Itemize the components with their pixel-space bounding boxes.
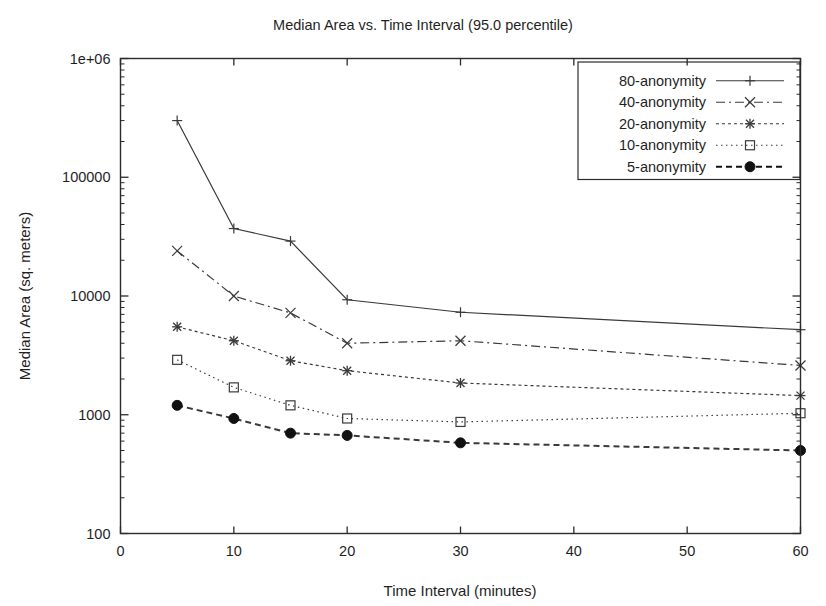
x-tick-label: 30 (452, 543, 468, 559)
x-tick-label: 20 (339, 543, 355, 559)
x-tick-label: 10 (226, 543, 242, 559)
median-area-line-chart: Median Area vs. Time Interval (95.0 perc… (0, 0, 826, 606)
y-axis-label: Median Area (sq. meters) (16, 212, 33, 380)
legend-label-80-anonymity: 80-anonymity (619, 73, 707, 89)
legend-label-20-anonymity: 20-anonymity (619, 116, 707, 132)
y-tick-label: 100000 (62, 169, 110, 185)
legend-marker-filled-circle-icon (745, 162, 755, 172)
x-tick-label: 40 (566, 543, 582, 559)
y-tick-label: 1000 (78, 407, 110, 423)
chart-container: Median Area vs. Time Interval (95.0 perc… (0, 0, 826, 606)
x-axis-label: Time Interval (minutes) (384, 582, 537, 599)
y-tick-label: 1e+06 (70, 51, 111, 67)
legend-marker-star-icon (745, 119, 755, 129)
legend-label-40-anonymity: 40-anonymity (619, 94, 707, 110)
chart-title: Median Area vs. Time Interval (95.0 perc… (273, 17, 573, 33)
chart-background (0, 0, 826, 606)
y-tick-label: 100 (86, 526, 110, 542)
x-tick-label: 0 (116, 543, 124, 559)
x-tick-label: 60 (792, 543, 808, 559)
x-tick-label: 50 (679, 543, 695, 559)
y-tick-label: 10000 (70, 288, 110, 304)
legend-label-10-anonymity: 10-anonymity (619, 137, 707, 153)
legend-label-5-anonymity: 5-anonymity (627, 159, 707, 175)
